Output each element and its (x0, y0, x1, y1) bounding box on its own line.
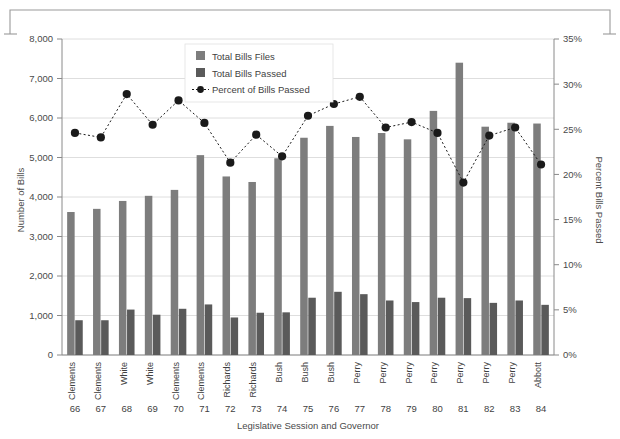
x-axis-session-label: 82 (484, 403, 495, 414)
bar-total-bills-filed (378, 133, 386, 355)
y2-tick-label: 15% (563, 214, 583, 225)
bar-total-bills-passed (490, 303, 498, 355)
left-axis-ticks: 01,0002,0003,0004,0005,0006,0007,0008,00… (29, 33, 62, 360)
bar-total-bills-passed (127, 310, 134, 355)
chart-legend: Total Bills Files Total Bills Passed Per… (185, 44, 333, 102)
y-tick-label: 5,000 (29, 152, 53, 163)
y-tick-label: 8,000 (29, 33, 53, 44)
x-axis-governor-label: Perry (481, 362, 491, 384)
x-axis-governor-label: Clements (67, 362, 77, 401)
y-tick-label: 4,000 (29, 191, 53, 202)
bar-total-bills-passed (438, 298, 446, 355)
chart-container: 01,0002,0003,0004,0005,0006,0007,0008,00… (0, 0, 620, 439)
x-axis-governor-label: Bush (326, 362, 336, 383)
x-axis-session-label: 80 (432, 403, 443, 414)
y2-tick-label: 20% (563, 169, 583, 180)
x-axis-session-label: 81 (458, 403, 469, 414)
bar-total-bills-passed (101, 320, 109, 355)
bar-total-bills-passed (75, 320, 83, 355)
x-axis-session-label: 78 (380, 403, 391, 414)
percent-line-marker (485, 132, 493, 140)
y2-tick-label: 0% (563, 349, 577, 360)
x-axis-session-label: 73 (251, 403, 262, 414)
bar-total-bills-filed (171, 190, 179, 355)
x-axis-session-label: 66 (70, 403, 81, 414)
bar-total-bills-filed (430, 111, 438, 355)
percent-line-marker (226, 159, 234, 167)
percent-line-marker (304, 112, 312, 120)
x-axis-session-label: 67 (96, 403, 107, 414)
bar-total-bills-passed (205, 304, 213, 355)
percent-line-marker (149, 121, 157, 129)
y-axis-title: Number of Bills (15, 168, 26, 233)
percent-line-marker (459, 178, 467, 186)
y2-tick-label: 30% (563, 79, 583, 90)
bar-total-bills-passed (515, 300, 523, 355)
percent-line-marker (200, 119, 208, 127)
y-tick-label: 6,000 (29, 112, 53, 123)
x-axis-session-label: 77 (355, 403, 366, 414)
x-axis-governor-label: White (145, 362, 155, 385)
percent-line-marker (511, 123, 519, 131)
x-axis-session-label: 68 (121, 403, 132, 414)
y-tick-label: 3,000 (29, 231, 53, 242)
bar-line-combo-chart: 01,0002,0003,0004,0005,0006,0007,0008,00… (0, 0, 620, 439)
bar-total-bills-filed (197, 155, 205, 355)
bar-total-bills-filed (274, 158, 282, 355)
percent-line-marker (97, 133, 105, 141)
bar-total-bills-filed (223, 176, 231, 355)
x-axis-session-label: 69 (147, 403, 158, 414)
legend-swatch-total-bills-files (196, 51, 205, 60)
percent-line-marker (407, 118, 415, 126)
bar-series-group (67, 63, 549, 355)
x-axis-governor-label: Richards (222, 362, 232, 398)
bar-total-bills-filed (67, 212, 75, 355)
bar-total-bills-passed (231, 317, 239, 355)
bar-total-bills-filed (145, 196, 153, 355)
x-axis-governor-label: Perry (429, 362, 439, 384)
bar-total-bills-filed (326, 126, 334, 355)
bar-total-bills-filed (404, 139, 412, 355)
bar-total-bills-filed (481, 127, 489, 355)
x-axis-session-label: 76 (329, 403, 340, 414)
bar-total-bills-passed (257, 313, 265, 355)
bar-total-bills-passed (308, 298, 316, 355)
x-axis-governor-label: Clements (93, 362, 103, 401)
x-axis-governor-label: Clements (196, 362, 206, 401)
x-axis-category-labels: Clements66Clements67White68White69Clemen… (67, 362, 546, 414)
x-axis-title: Legislative Session and Governor (237, 420, 379, 431)
percent-line-marker (123, 90, 131, 98)
bar-total-bills-filed (352, 137, 360, 355)
bar-total-bills-filed (248, 182, 256, 355)
x-axis-session-label: 72 (225, 403, 236, 414)
bar-total-bills-passed (153, 315, 161, 355)
x-axis-governor-label: Perry (352, 362, 362, 384)
bar-total-bills-passed (412, 302, 420, 355)
bar-total-bills-passed (464, 298, 472, 355)
x-axis-governor-label: Perry (455, 362, 465, 384)
percent-line-marker (252, 131, 260, 139)
y2-tick-label: 35% (563, 33, 583, 44)
x-axis-governor-label: Perry (404, 362, 414, 384)
x-axis-session-label: 71 (199, 403, 210, 414)
percent-line-marker (174, 96, 182, 104)
percent-line-marker (71, 129, 79, 137)
percent-line-marker (356, 93, 364, 101)
bar-total-bills-filed (456, 63, 464, 355)
x-axis-governor-label: Abbott (533, 362, 543, 389)
bar-total-bills-filed (93, 209, 101, 355)
x-axis-governor-label: Bush (274, 362, 284, 383)
legend-marker-percent-of-bills-passed (197, 86, 204, 93)
legend-label-percent-of-bills-passed: Percent of Bills Passed (212, 84, 310, 95)
x-axis-governor-label: Perry (507, 362, 517, 384)
bar-total-bills-passed (360, 294, 368, 355)
crop-bracket-marks (4, 10, 616, 34)
x-axis-session-label: 83 (510, 403, 521, 414)
x-axis-session-label: 75 (303, 403, 314, 414)
y2-tick-label: 25% (563, 124, 583, 135)
percent-line-marker (382, 123, 390, 131)
x-axis-governor-label: Richards (248, 362, 258, 398)
bar-total-bills-passed (334, 292, 342, 355)
x-axis-governor-label: White (119, 362, 129, 385)
x-axis-governor-label: Clements (171, 362, 181, 401)
